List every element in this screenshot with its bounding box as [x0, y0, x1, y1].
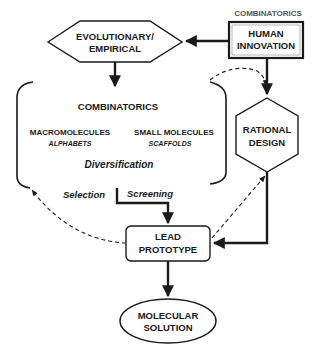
human-innovation-line1: HUMAN [248, 28, 283, 39]
evolutionary-line1: EVOLUTIONARY/ [76, 31, 154, 42]
combinatorics-top-label: COMBINATORICS [234, 9, 302, 18]
alphabets-label: ALPHABETS [48, 140, 92, 147]
rational-design-line1: RATIONAL [243, 124, 292, 135]
selection-label: Selection [63, 189, 105, 200]
lead-prototype-line1: LEAD [155, 231, 181, 242]
molecular-solution-ellipse: MOLECULAR SOLUTION [120, 299, 216, 343]
flow-diagram: COMBINATORICS HUMAN INNOVATION EVOLUTION… [0, 0, 314, 353]
small-molecules-label: SMALL MOLECULES [134, 128, 215, 137]
scaffolds-label: SCAFFOLDS [149, 140, 192, 147]
diversification-label: Diversification [85, 159, 154, 170]
lead-prototype-line2: PROTOTYPE [139, 244, 197, 255]
human-innovation-line2: INNOVATION [237, 40, 295, 51]
dashed-arrow-combinatorics-to-rational [210, 68, 266, 86]
combinatorics-group: COMBINATORICS MACROMOLECULES ALPHABETS S… [30, 101, 215, 170]
human-innovation-box: HUMAN INNOVATION [229, 22, 303, 58]
lead-prototype-box: LEAD PROTOTYPE [126, 226, 210, 261]
combinatorics-title: COMBINATORICS [78, 101, 158, 112]
molecular-solution-line2: SOLUTION [143, 322, 192, 333]
dashed-arrow-lead-to-rational [212, 176, 265, 238]
evolutionary-line2: EMPIRICAL [89, 43, 141, 54]
screening-label: Screening [127, 188, 173, 199]
rational-design-line2: DESIGN [249, 137, 286, 148]
molecular-solution-line1: MOLECULAR [138, 310, 199, 321]
evolutionary-empirical-hexagon: EVOLUTIONARY/ EMPIRICAL [48, 21, 182, 62]
macromolecules-label: MACROMOLECULES [30, 128, 111, 137]
rational-design-hexagon: RATIONAL DESIGN [236, 98, 298, 172]
